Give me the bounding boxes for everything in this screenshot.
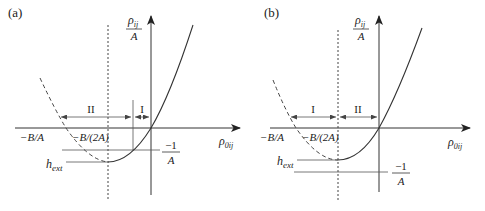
h-ext-label: hext <box>277 154 294 170</box>
diagram-canvas: (a) II I −B/A −B/(2A) hext −1 A ρij A <box>0 0 485 211</box>
y-axis-label-den: A <box>130 30 138 42</box>
dashed-curve <box>40 78 108 162</box>
minus-one-numerator: −1 <box>395 160 407 172</box>
y-axis-label-den: A <box>357 30 365 42</box>
minus-one-denominator: A <box>167 154 175 166</box>
panel-b-label: (b) <box>264 5 279 20</box>
x-axis-label: ρ0ij <box>447 135 463 151</box>
h-ext-label: hext <box>46 157 63 173</box>
region-i-label: I <box>140 103 144 115</box>
region-ii-label: II <box>354 103 362 115</box>
panel-b: (b) I II −B/A −B/(2A) hext −1 A ρij A ρ0… <box>260 5 470 200</box>
dashed-curve <box>273 80 338 160</box>
region-ii-label: II <box>87 103 95 115</box>
tick-neg-b-a: −B/A <box>20 131 44 143</box>
tick-neg-b-a: −B/A <box>260 131 284 143</box>
panel-a-label: (a) <box>8 5 22 20</box>
minus-one-denominator: A <box>397 175 405 187</box>
minus-one-numerator: −1 <box>165 139 177 151</box>
tick-neg-b-2a: −B/(2A) <box>302 131 339 144</box>
x-axis-label: ρ0ij <box>218 134 234 150</box>
panel-a: (a) II I −B/A −B/(2A) hext −1 A ρij A <box>8 5 240 200</box>
tick-neg-b-2a: −B/(2A) <box>72 131 109 144</box>
region-i-label: I <box>311 103 315 115</box>
solid-curve <box>338 28 422 160</box>
y-axis-label-num: ρij <box>354 13 366 29</box>
y-axis-label-num: ρij <box>127 13 139 29</box>
